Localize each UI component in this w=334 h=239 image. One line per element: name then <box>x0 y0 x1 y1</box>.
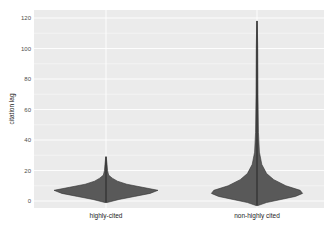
x-axis-labels: highly-citednon-highly cited <box>90 212 281 220</box>
y-tick-label: 0 <box>28 198 32 204</box>
y-tick-label: 100 <box>21 46 32 52</box>
plot-panel <box>34 10 324 208</box>
y-tick-label: 60 <box>24 107 31 113</box>
y-axis-ticks: 020406080100120 <box>21 15 32 204</box>
y-tick-label: 20 <box>24 168 31 174</box>
y-tick-label: 80 <box>24 76 31 82</box>
y-tick-label: 40 <box>24 137 31 143</box>
y-tick-label: 120 <box>21 15 32 21</box>
violin-chart: 020406080100120 highly-citednon-highly c… <box>0 0 334 239</box>
x-tick-label: highly-cited <box>90 212 123 220</box>
y-axis-label: citation lag <box>8 93 16 124</box>
x-tick-label: non-highly cited <box>234 212 280 220</box>
